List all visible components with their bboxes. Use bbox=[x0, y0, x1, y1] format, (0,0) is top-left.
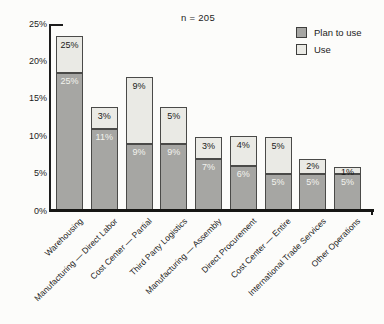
use-value-label: 4% bbox=[230, 140, 257, 151]
plan-to-use-value-label: 25% bbox=[56, 76, 83, 87]
y-tick-label: 5% bbox=[13, 168, 47, 179]
x-axis-line bbox=[49, 209, 374, 212]
x-axis-end-tick bbox=[371, 209, 373, 215]
legend-label: Plan to use bbox=[314, 27, 362, 38]
legend-item-plan-to-use: Plan to use bbox=[296, 27, 362, 38]
legend: Plan to use Use bbox=[296, 27, 362, 61]
use-swatch-icon bbox=[296, 44, 307, 55]
y-axis-top-cap bbox=[49, 24, 63, 26]
use-value-label: 25% bbox=[56, 40, 83, 51]
y-tick-label: 15% bbox=[13, 93, 47, 104]
plan-to-use-value-label: 5% bbox=[265, 177, 292, 188]
plan-to-use-value-label: 5% bbox=[334, 177, 361, 188]
plan-to-use-value-label: 9% bbox=[160, 147, 187, 158]
plan-to-use-value-label: 9% bbox=[126, 147, 153, 158]
legend-label: Use bbox=[314, 44, 331, 55]
x-category-label: Cost Center — Partial bbox=[89, 216, 155, 282]
y-tick-label: 20% bbox=[13, 56, 47, 67]
legend-item-use: Use bbox=[296, 44, 362, 55]
bar-segment-plan-to-use bbox=[56, 73, 83, 211]
plan-to-use-value-label: 7% bbox=[195, 162, 222, 173]
use-value-label: 5% bbox=[160, 111, 187, 122]
use-value-label: 3% bbox=[91, 111, 118, 122]
plan-to-use-swatch-icon bbox=[296, 27, 307, 38]
y-tick-label: 10% bbox=[13, 131, 47, 142]
chart-note-n: n = 205 bbox=[166, 12, 230, 23]
y-tick-label: 25% bbox=[13, 19, 47, 30]
use-value-label: 2% bbox=[299, 161, 326, 172]
plan-to-use-value-label: 5% bbox=[299, 177, 326, 188]
y-axis-line bbox=[49, 24, 51, 212]
plan-to-use-value-label: 6% bbox=[230, 169, 257, 180]
use-value-label: 5% bbox=[265, 141, 292, 152]
use-value-label: 9% bbox=[126, 81, 153, 92]
stacked-bar-chart: n = 205 Plan to use Use 0%5%10%15%20%25%… bbox=[0, 0, 384, 324]
plan-to-use-value-label: 11% bbox=[91, 132, 118, 143]
x-category-label: Cost Center — Entire bbox=[229, 216, 293, 280]
y-tick-label: 0% bbox=[13, 206, 47, 217]
use-value-label: 3% bbox=[195, 141, 222, 152]
